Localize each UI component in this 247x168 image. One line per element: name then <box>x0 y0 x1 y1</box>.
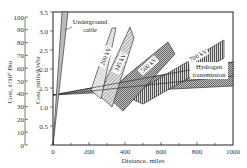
y-tick-3.5: 3.5 <box>39 9 48 17</box>
x-tick-0: 0 <box>51 148 55 156</box>
y2-tick-60: 60 <box>17 65 25 73</box>
y2-tick-100: 100 <box>14 14 25 22</box>
x-tick-200: 200 <box>84 148 95 156</box>
underground-cable-band <box>53 12 68 145</box>
x-tick-600: 600 <box>156 148 167 156</box>
hydrogen-label-line1: Hydrogen <box>196 63 223 70</box>
y-tick-3.0: 3.0 <box>39 28 48 36</box>
y-axis-title-primary: Cost, mills/kWhr <box>34 55 42 104</box>
hydrogen-label-line2: transmission <box>193 71 227 78</box>
y-tick-0.5: 0.5 <box>39 123 48 131</box>
underground-label-line1: Underground <box>73 18 108 25</box>
x-tick-labels: 0 200 400 600 800 1000 <box>51 148 240 156</box>
y2-tick-80: 80 <box>17 39 25 47</box>
y2-tick-70: 70 <box>17 52 25 60</box>
y2-tick-90: 90 <box>17 26 25 34</box>
x-tick-800: 800 <box>192 148 203 156</box>
x-axis-title: Distance, miles <box>121 157 164 165</box>
cost-vs-distance-chart: 0 200 400 600 800 1000 Distance, miles 0… <box>0 0 247 168</box>
y-tick-2.5: 2.5 <box>39 47 48 55</box>
y2-tick-20: 20 <box>17 116 25 124</box>
x-tick-1000: 1000 <box>226 148 241 156</box>
y2-tick-10: 10 <box>17 129 25 137</box>
y-axis-title-secondary: Cost, ¢/10⁶ Btu <box>6 60 14 104</box>
y-tick-labels-secondary: 0 10 20 30 40 50 60 70 80 90 100 <box>14 14 25 150</box>
underground-label-line2: cable <box>83 26 97 33</box>
y2-tick-40: 40 <box>17 90 25 98</box>
y2-tick-50: 50 <box>17 78 25 86</box>
y2-tick-30: 30 <box>17 103 25 111</box>
y2-tick-0: 0 <box>21 142 25 150</box>
x-tick-400: 400 <box>120 148 131 156</box>
y-tick-1.0: 1.0 <box>39 104 48 112</box>
y-axis-secondary-ticks <box>25 17 28 145</box>
